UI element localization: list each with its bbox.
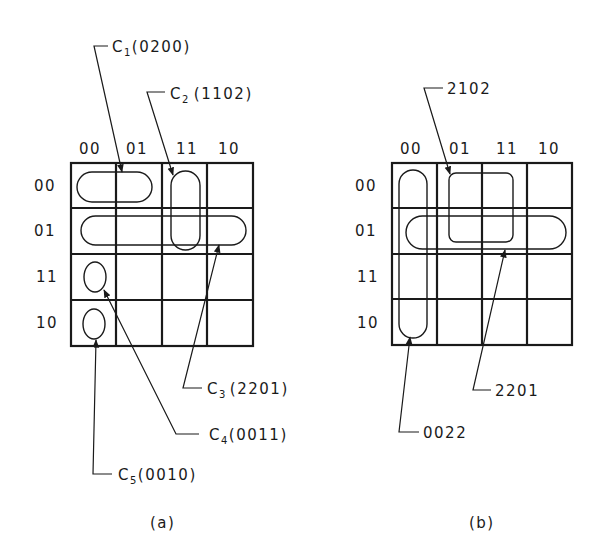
col-header-01: 01 — [449, 140, 471, 158]
cube-label-0022: 0022 — [423, 424, 467, 442]
cube-label-c1: C1(0200) — [112, 38, 191, 58]
row-header-01: 01 — [34, 222, 56, 240]
loop-c4 — [84, 262, 106, 292]
col-header-11: 11 — [176, 140, 198, 158]
caption-a: (a) — [150, 514, 175, 532]
leader-2201 — [473, 250, 505, 390]
kmap-grid-a — [71, 163, 253, 346]
col-header-10: 10 — [218, 140, 240, 158]
kmap-grid-b — [392, 163, 572, 345]
karnaugh-map-figure: 00 01 11 10 00 01 11 10 — [0, 0, 591, 536]
leader-0022 — [399, 337, 419, 432]
loop-c5 — [83, 309, 105, 339]
cube-label-2102: 2102 — [447, 80, 491, 98]
figure-b: 00 01 11 10 00 01 11 10 2102 2201 0022 (… — [355, 80, 572, 532]
row-header-11: 11 — [36, 268, 58, 286]
col-header-00: 00 — [79, 140, 101, 158]
leader-c3 — [183, 245, 219, 388]
cube-label-c2: C2(1102) — [170, 85, 253, 105]
cube-label-2201: 2201 — [495, 382, 539, 400]
row-header-00: 00 — [34, 177, 56, 195]
col-header-01: 01 — [126, 140, 148, 158]
col-header-10: 10 — [538, 140, 560, 158]
loop-2201 — [406, 216, 566, 249]
row-header-10: 10 — [36, 314, 58, 332]
loop-c1 — [77, 172, 152, 202]
loop-c3 — [81, 216, 246, 245]
cube-label-c3: C3(2201) — [207, 380, 289, 400]
leader-c5 — [93, 340, 112, 474]
row-header-00: 00 — [355, 177, 377, 195]
cube-label-c4: C4(0011) — [209, 426, 288, 446]
col-header-11: 11 — [496, 140, 518, 158]
cube-label-c5: C5(0010) — [118, 466, 197, 486]
row-header-01: 01 — [355, 222, 377, 240]
caption-b: (b) — [469, 514, 495, 532]
leader-c4 — [104, 290, 199, 434]
row-header-10: 10 — [357, 314, 379, 332]
col-header-00: 00 — [400, 140, 422, 158]
row-header-11: 11 — [357, 268, 379, 286]
leader-2102 — [424, 88, 450, 174]
figure-a: 00 01 11 10 00 01 11 10 — [34, 38, 289, 532]
loop-c2 — [171, 171, 200, 250]
